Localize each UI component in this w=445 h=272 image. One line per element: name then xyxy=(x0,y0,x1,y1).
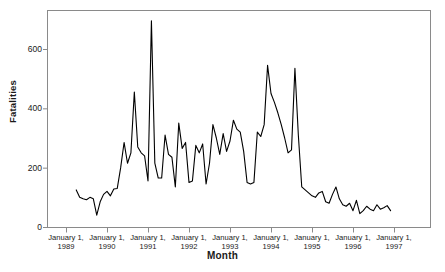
plot-frame xyxy=(48,11,431,228)
x-tick-marks xyxy=(67,228,395,233)
data-series-line xyxy=(76,21,390,215)
plot-area xyxy=(0,0,445,272)
chart-figure: Fatalities Month 0 200 400 600 January 1… xyxy=(0,0,445,272)
